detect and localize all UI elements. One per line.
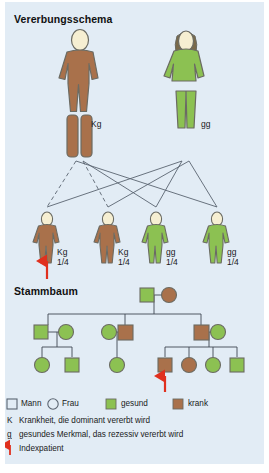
child-3-probability-label: 1/4 — [166, 258, 178, 268]
pedigree-g2-female-1 — [59, 325, 74, 340]
legend-label-frau: Frau — [62, 399, 79, 408]
parent-father-figure — [59, 30, 98, 158]
child-2-figure — [94, 212, 120, 263]
figure-panel: Vererbungsschema — [5, 2, 264, 464]
legend-text-g: gesundes Merkmal, das rezessiv vererbt w… — [19, 430, 183, 439]
pedigree-g3-male-1 — [65, 358, 79, 372]
parent-mother-figure — [164, 31, 204, 128]
pedigree-g1-male — [140, 288, 154, 302]
legend-brown-square-icon — [173, 399, 183, 409]
legend-row-K: KKrankheit, die dominant vererbt wird — [7, 416, 150, 425]
father-genotype-label: Kg — [91, 120, 101, 130]
legend-green-square-icon — [106, 399, 116, 409]
legend-code-K: K — [7, 416, 19, 425]
pedigree-g3-male-2 — [230, 358, 244, 372]
pedigree-g2-female-3 — [211, 325, 226, 340]
gamete-lines — [47, 161, 217, 207]
mother-genotype-label: gg — [201, 120, 210, 130]
pedigree-g1-female — [162, 288, 177, 303]
legend-circle-outline-icon — [48, 399, 58, 409]
child-4-figure — [203, 212, 229, 263]
legend-label-krank: krank — [188, 399, 208, 408]
legend-square-outline-icon — [7, 399, 17, 409]
pedigree-g2-male-3 — [194, 325, 209, 340]
legend-code-g: g — [7, 430, 19, 439]
pedigree-g2-female-2 — [102, 325, 117, 340]
pedigree-g3-female-1 — [35, 358, 50, 373]
legend-text-K: Krankheit, die dominant vererbt wird — [19, 416, 150, 425]
child-3-figure — [142, 212, 168, 263]
legend-label-gesund: gesund — [121, 399, 148, 408]
legend-label-mann: Mann — [21, 399, 41, 408]
child-4-probability-label: 1/4 — [227, 258, 239, 268]
pedigree-g2-male-1 — [34, 325, 48, 339]
child-1-probability-label: 1/4 — [57, 258, 69, 268]
pedigree-g3-female-3 — [182, 358, 197, 373]
inheritance-diagram — [5, 2, 264, 464]
pedigree-g3-female-4 — [206, 358, 221, 373]
legend-text-indexpatient: Indexpatient — [19, 444, 64, 453]
pedigree-g3-male-indexpatient — [158, 358, 172, 372]
section-title-stammbaum: Stammbaum — [14, 285, 78, 297]
pedigree-g3-female-2 — [110, 358, 125, 373]
pedigree-g2-male-2 — [118, 325, 133, 340]
legend-row-g: ggesundes Merkmal, das rezessiv vererbt … — [7, 430, 183, 439]
child-2-probability-label: 1/4 — [118, 258, 130, 268]
child-1-figure — [33, 212, 59, 263]
legend-row-index: Indexpatient — [7, 444, 64, 453]
